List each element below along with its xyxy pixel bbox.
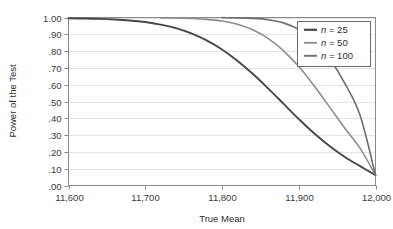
x-tick-label: 11,900 (285, 192, 313, 203)
x-axis-title: True Mean (199, 213, 245, 224)
y-tick-label: .70 (48, 63, 61, 74)
power-of-test-line-chart: 11,60011,70011,80011,90012,000 .00.10.20… (0, 0, 393, 229)
legend-items-group: n = 25n = 50n = 100 (304, 24, 353, 61)
y-tick-label: .00 (48, 181, 61, 192)
x-tick-label: 12,000 (362, 192, 391, 203)
x-tick-label: 11,700 (131, 192, 159, 203)
y-tick-label: .90 (48, 29, 61, 40)
power-curve-figure: 11,60011,70011,80011,90012,000 .00.10.20… (0, 0, 393, 229)
y-tick-label: .20 (48, 147, 61, 158)
legend-label: n = 25 (321, 24, 348, 35)
y-tick-label: .10 (48, 164, 61, 175)
y-tick-label: .30 (48, 130, 61, 141)
y-tick-label: .40 (48, 113, 61, 124)
y-tick-label: .50 (48, 97, 61, 108)
y-tick-label: 1.00 (43, 13, 62, 24)
x-tick-label: 11,600 (55, 192, 83, 203)
legend: n = 25n = 50n = 100 (298, 22, 371, 67)
legend-label: n = 100 (321, 50, 353, 61)
y-tick-label: .80 (48, 46, 61, 57)
y-tick-label: .60 (48, 80, 61, 91)
legend-label: n = 50 (321, 37, 348, 48)
y-axis-title: Power of the Test (7, 64, 18, 138)
x-tick-label: 11,800 (208, 192, 236, 203)
